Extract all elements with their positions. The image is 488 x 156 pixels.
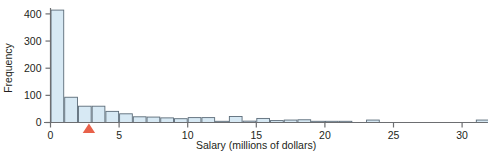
histogram-bar (257, 118, 270, 122)
bars-group (51, 10, 488, 122)
mean-marker (83, 124, 95, 134)
x-tick-label: 25 (388, 129, 400, 141)
mean-marker-triangle (83, 124, 95, 134)
histogram-bar (106, 111, 119, 122)
x-tick-label: 5 (116, 129, 122, 141)
x-ticks-group: 051015202530 (48, 123, 469, 141)
y-tick-label: 100 (24, 89, 42, 101)
y-axis-title: Frequency (2, 38, 14, 98)
x-tick-label: 20 (319, 129, 331, 141)
histogram-bar (147, 117, 160, 122)
histogram-bar (120, 114, 133, 123)
x-tick-label: 30 (456, 129, 468, 141)
axes-group (44, 8, 487, 123)
x-tick-label: 10 (182, 129, 194, 141)
histogram-bar (202, 118, 215, 123)
y-tick-label: 400 (24, 8, 42, 20)
histogram-bar (133, 117, 146, 123)
histogram-bar (92, 106, 105, 122)
histogram-bar (78, 106, 91, 122)
histogram-bar (229, 117, 242, 123)
histogram-bar (161, 118, 174, 123)
histogram-figure: 0100200300400 051015202530 Salary (milli… (0, 0, 488, 156)
x-axis-title: Salary (millions of dollars) (196, 139, 316, 151)
histogram-bar (51, 10, 64, 122)
y-ticks-group: 0100200300400 (24, 8, 51, 129)
histogram-bar (188, 118, 201, 123)
y-tick-label: 300 (24, 35, 42, 47)
y-tick-label: 200 (24, 62, 42, 74)
x-tick-label: 0 (48, 129, 54, 141)
y-tick-label: 0 (36, 116, 42, 128)
histogram-plot: 0100200300400 051015202530 (0, 0, 488, 156)
histogram-bar (65, 97, 78, 122)
